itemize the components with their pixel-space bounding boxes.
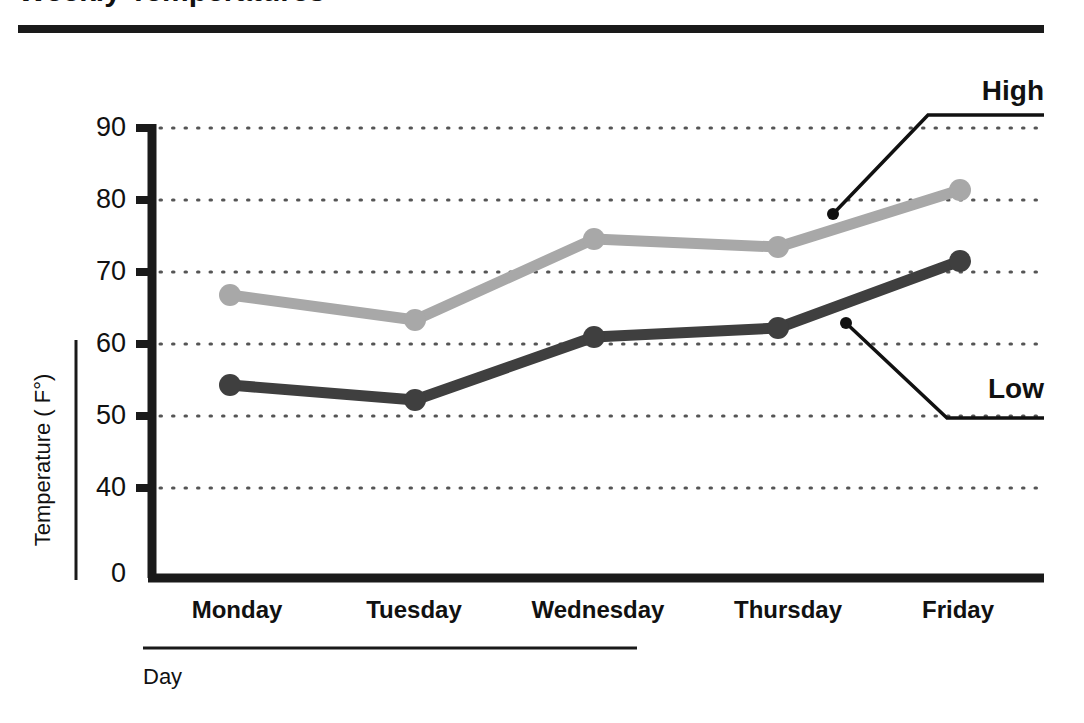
annotation-low: Low: [840, 317, 1044, 418]
y-tick-label-40: 40: [96, 472, 126, 502]
annotation-low-leader-dot: [840, 317, 852, 329]
series-low-marker-tuesday: [404, 389, 426, 411]
series-low-marker-wednesday: [583, 326, 605, 348]
annotation-low-label: Low: [988, 373, 1044, 404]
series-low-marker-monday: [219, 374, 241, 396]
y-tick-label-0: 0: [111, 558, 126, 588]
y-tick-label-50: 50: [96, 400, 126, 430]
chart-page: Weekly Temperatures: [0, 0, 1084, 723]
series-high-marker-wednesday: [583, 228, 605, 250]
x-tick-labels: Monday Tuesday Wednesday Thursday Friday: [192, 596, 995, 623]
series-low-marker-thursday: [767, 317, 789, 339]
series-low-marker-friday: [949, 250, 971, 272]
series-high-marker-monday: [219, 284, 241, 306]
x-tick-label-tuesday: Tuesday: [366, 596, 462, 623]
y-tick-label-80: 80: [96, 184, 126, 214]
series-high-marker-tuesday: [404, 309, 426, 331]
y-tick-label-90: 90: [96, 112, 126, 142]
series-high-marker-thursday: [767, 236, 789, 258]
y-tick-label-70: 70: [96, 256, 126, 286]
axes: [136, 124, 1044, 578]
y-tick-labels: 90 80 70 60 50 40 0: [96, 112, 126, 588]
y-tick-label-60: 60: [96, 328, 126, 358]
series-high: [219, 179, 971, 331]
x-tick-label-friday: Friday: [922, 596, 995, 623]
x-axis-title-group: Day: [143, 648, 637, 689]
series-low: [219, 250, 971, 411]
annotation-high-leader-dot: [827, 208, 839, 220]
series-high-marker-friday: [949, 179, 971, 201]
line-chart-plot: 90 80 70 60 50 40 0 Temperature ( F°): [0, 0, 1084, 723]
annotation-high-label: High: [982, 75, 1044, 106]
x-axis-title: Day: [143, 664, 182, 689]
y-axis-title: Temperature ( F°): [30, 374, 55, 547]
x-tick-label-thursday: Thursday: [734, 596, 843, 623]
y-axis-title-group: Temperature ( F°): [30, 340, 76, 580]
x-tick-label-wednesday: Wednesday: [532, 596, 666, 623]
x-tick-label-monday: Monday: [192, 596, 283, 623]
